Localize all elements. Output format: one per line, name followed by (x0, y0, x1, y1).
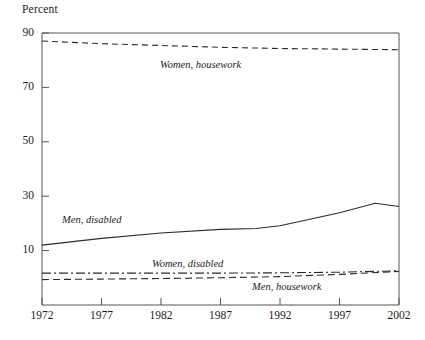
y-tick-label-70: 70 (8, 80, 34, 92)
x-tick-label-1992: 1992 (257, 309, 303, 321)
chart-figure: Percent 90 70 50 30 10 1972 19 (0, 0, 425, 340)
y-tick-label-30: 30 (8, 189, 34, 201)
y-tick-label-50: 50 (8, 134, 34, 146)
plot-area (0, 0, 425, 340)
series-line-women-disabled (42, 271, 399, 273)
x-tick-label-1997: 1997 (317, 309, 363, 321)
series-label-men-housework: Men, housework (252, 281, 321, 292)
series-label-men-disabled: Men, disabled (62, 214, 122, 225)
x-tick-label-1982: 1982 (138, 309, 184, 321)
series-line-women-housework (42, 41, 399, 50)
series-label-women-housework: Women, housework (160, 59, 241, 70)
x-tick-label-1987: 1987 (198, 309, 244, 321)
x-tick-label-1972: 1972 (19, 309, 65, 321)
y-tick-label-90: 90 (8, 26, 34, 38)
x-tick-label-2002: 2002 (376, 309, 422, 321)
y-tick-label-10: 10 (8, 243, 34, 255)
series-label-women-disabled: Women, disabled (152, 258, 223, 269)
x-tick-label-1977: 1977 (79, 309, 125, 321)
